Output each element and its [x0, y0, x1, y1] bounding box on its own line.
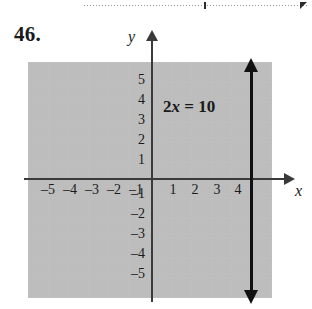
x-tick-label: –2: [104, 182, 124, 198]
y-tick-label: 2: [123, 132, 145, 148]
y-axis: [151, 40, 153, 302]
x-tick-label: –3: [82, 182, 102, 198]
equation-annotation: 2x = 10: [163, 97, 215, 117]
grid-line-vertical: [28, 62, 29, 298]
grid-line-horizontal: [28, 162, 272, 163]
grid: [28, 62, 272, 298]
grid-line-vertical: [271, 62, 272, 298]
line-arrow-down-icon: [244, 290, 258, 304]
x-axis-arrow-icon: [284, 173, 295, 185]
y-tick-label: 1: [123, 152, 145, 168]
grid-line-horizontal: [28, 142, 272, 143]
grid-line-horizontal: [28, 258, 272, 259]
grid-line-horizontal: [28, 218, 272, 219]
grid-line-horizontal: [28, 198, 272, 199]
grid-line-horizontal: [28, 102, 272, 103]
y-tick-label: 4: [123, 92, 145, 108]
coordinate-graph: x y –5 –4 –3 –2 –1 1 2 3 4 5 4 3 2 1 –1 …: [0, 0, 312, 309]
equation-remainder: = 10: [180, 97, 215, 116]
grid-line-vertical: [68, 62, 69, 298]
y-tick-label: –2: [123, 206, 145, 222]
grid-line-vertical: [108, 62, 109, 298]
x-tick-label: 4: [228, 182, 248, 198]
x-axis-label: x: [295, 182, 302, 200]
equation-coefficient: 2: [163, 97, 172, 116]
x-tick-label: –5: [38, 182, 58, 198]
plotted-line-x-equals-5: [250, 70, 253, 292]
y-tick-label: –1: [123, 186, 145, 202]
grid-line-horizontal: [28, 278, 272, 279]
grid-line-vertical: [48, 62, 49, 298]
y-tick-label: 5: [123, 72, 145, 88]
y-tick-label: –3: [123, 226, 145, 242]
x-tick-label: 2: [185, 182, 205, 198]
grid-line-horizontal: [28, 122, 272, 123]
x-axis: [24, 178, 286, 180]
grid-line-vertical: [231, 62, 232, 298]
y-tick-label: 3: [123, 112, 145, 128]
equation-variable: x: [172, 97, 181, 116]
x-tick-label: 1: [163, 182, 183, 198]
y-axis-arrow-icon: [146, 30, 158, 41]
grid-line-vertical: [88, 62, 89, 298]
grid-line-horizontal: [28, 297, 272, 298]
y-axis-label: y: [128, 28, 135, 46]
grid-line-horizontal: [28, 238, 272, 239]
x-tick-label: 3: [207, 182, 227, 198]
x-tick-label: –4: [60, 182, 80, 198]
grid-line-horizontal: [28, 82, 272, 83]
y-tick-label: –5: [123, 266, 145, 282]
y-tick-label: –4: [123, 246, 145, 262]
grid-line-horizontal: [28, 62, 272, 63]
